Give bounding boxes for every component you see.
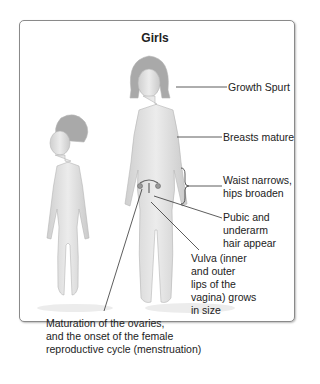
label-ovaries-line3: reproductive cycle (menstruation) bbox=[46, 343, 201, 356]
label-pubic-line1: Pubic and bbox=[223, 211, 270, 224]
label-vulva-line3: lips of the bbox=[191, 278, 236, 291]
label-vulva-line1: Vulva (inner bbox=[191, 252, 247, 265]
adolescent-figure bbox=[125, 56, 187, 303]
label-vulva-line5: in size bbox=[191, 304, 221, 317]
label-ovaries-line2: and the onset of the female bbox=[46, 330, 173, 343]
label-breasts-mature: Breasts mature bbox=[223, 131, 294, 144]
label-pubic-line2: underarm bbox=[223, 224, 268, 237]
label-waist-line2: hips broaden bbox=[223, 187, 284, 200]
label-vulva-line4: vagina) grows bbox=[191, 291, 256, 304]
label-ovaries-line1: Maturation of the ovaries, bbox=[46, 317, 164, 330]
label-pubic-line3: hair appear bbox=[223, 237, 276, 250]
label-growth-spurt: Growth Spurt bbox=[228, 81, 290, 94]
label-waist-line1: Waist narrows, bbox=[223, 174, 292, 187]
child-figure bbox=[47, 115, 89, 295]
label-vulva-line2: and outer bbox=[191, 265, 235, 278]
